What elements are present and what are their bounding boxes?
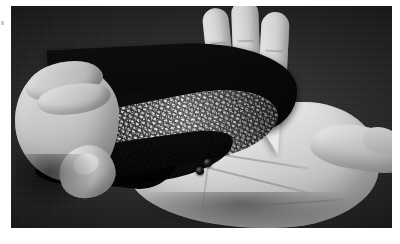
registration-tick-icon — [1, 21, 4, 25]
left-hand-shadow — [15, 154, 101, 216]
bead — [204, 159, 212, 167]
bead — [196, 167, 204, 175]
left-pinching-hand — [15, 58, 133, 208]
page-canvas — [0, 0, 400, 244]
photograph — [11, 6, 392, 228]
palm-shadow — [129, 192, 379, 228]
